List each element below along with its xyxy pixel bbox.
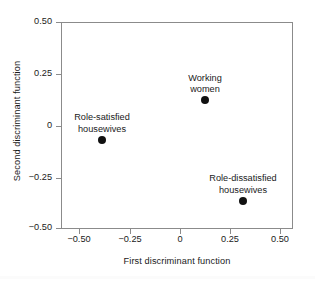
data-label-line2: housewives xyxy=(78,124,126,134)
data-point-role-dissatisfied-housewives[interactable] xyxy=(239,197,247,205)
scatter-plot-figure: Second discriminant function 0.50 0.25 0… xyxy=(0,0,315,282)
y-tick-label-0: 0.50 xyxy=(0,16,52,26)
y-tick-label-1: 0.25 xyxy=(0,68,52,78)
y-tick-label-4: −0.50 xyxy=(0,222,52,232)
data-label-line2: women xyxy=(190,84,220,94)
scan-artifact-strip xyxy=(0,276,315,279)
data-label-line1: Role-dissatisfied xyxy=(209,173,276,183)
data-label-working-women: Working women xyxy=(130,73,280,96)
x-tick-label-4: 0.50 xyxy=(250,234,310,244)
data-label-role-satisfied-housewives: Role-satisfied housewives xyxy=(27,112,177,135)
data-label-line1: Working xyxy=(188,73,222,83)
plot-area: Role-satisfied housewives Working women … xyxy=(61,22,293,229)
data-label-line2: housewives xyxy=(219,185,267,195)
data-label-line1: Role-satisfied xyxy=(74,112,130,122)
data-point-role-satisfied-housewives[interactable] xyxy=(98,136,106,144)
x-axis-title: First discriminant function xyxy=(61,256,293,266)
data-point-working-women[interactable] xyxy=(201,96,209,104)
data-label-role-dissatisfied-housewives: Role-dissatisfied housewives xyxy=(168,173,315,196)
y-tick-label-3: −0.25 xyxy=(0,172,52,182)
